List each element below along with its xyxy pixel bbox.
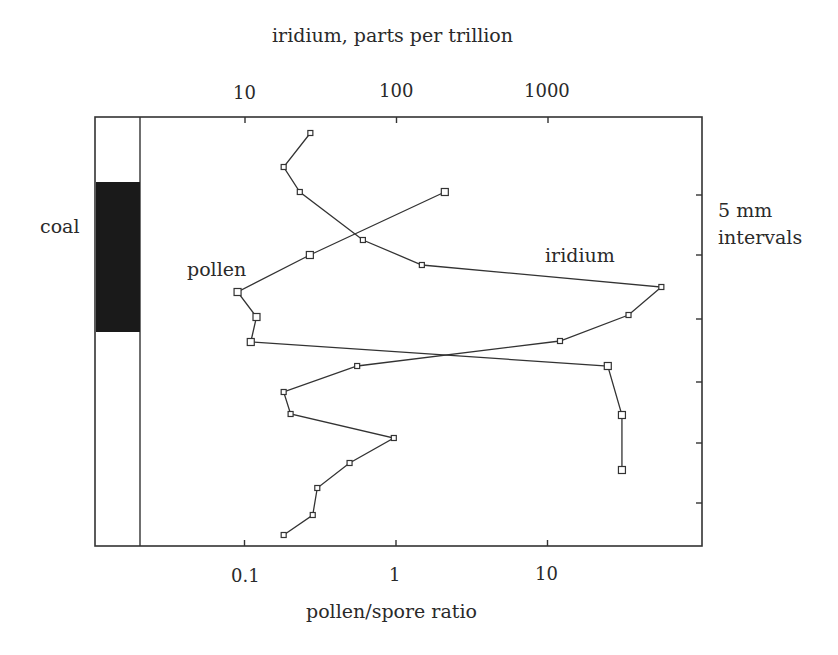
data-point-marker <box>347 461 352 466</box>
data-point-marker <box>441 189 448 196</box>
plot-frame <box>95 117 702 546</box>
data-point-marker <box>557 339 562 344</box>
pollen-line <box>238 192 622 470</box>
right-axis-label-line2: intervals <box>718 226 802 248</box>
data-point-marker <box>281 533 286 538</box>
bottom-axis-title: pollen/spore ratio <box>306 600 477 622</box>
top-tick-1000: 1000 <box>524 80 570 101</box>
bottom-tick-10: 10 <box>535 563 558 584</box>
data-point-marker <box>618 412 625 419</box>
top-axis-ticks <box>245 117 548 123</box>
pollen-series-label: pollen <box>187 258 246 280</box>
data-point-marker <box>247 339 254 346</box>
data-point-marker <box>306 252 313 259</box>
data-point-marker <box>391 436 396 441</box>
data-point-marker <box>297 190 302 195</box>
data-point-marker <box>253 314 260 321</box>
top-axis-title: iridium, parts per trillion <box>272 24 513 46</box>
top-tick-100: 100 <box>379 80 413 101</box>
data-point-marker <box>281 165 286 170</box>
right-axis-label-line1: 5 mm <box>718 199 772 221</box>
data-point-marker <box>618 467 625 474</box>
chart-plot <box>0 0 838 655</box>
bottom-axis-ticks <box>245 540 548 546</box>
data-point-marker <box>355 364 360 369</box>
data-point-marker <box>626 313 631 318</box>
coal-label: coal <box>40 215 79 237</box>
pollen-series <box>234 189 625 474</box>
data-point-marker <box>308 131 313 136</box>
data-point-marker <box>234 289 241 296</box>
bottom-tick-1: 1 <box>389 564 400 585</box>
data-point-marker <box>604 363 611 370</box>
bottom-tick-0.1: 0.1 <box>231 565 260 586</box>
data-point-marker <box>288 412 293 417</box>
coal-layer <box>96 182 140 332</box>
data-point-marker <box>360 238 365 243</box>
data-point-marker <box>310 513 315 518</box>
iridium-series-label: iridium <box>545 244 615 266</box>
data-point-marker <box>315 486 320 491</box>
data-point-marker <box>419 263 424 268</box>
data-point-marker <box>281 390 286 395</box>
iridium-line <box>284 133 662 535</box>
top-tick-10: 10 <box>233 82 256 103</box>
data-point-marker <box>659 285 664 290</box>
right-axis-ticks <box>696 195 702 503</box>
iridium-series <box>281 131 664 538</box>
